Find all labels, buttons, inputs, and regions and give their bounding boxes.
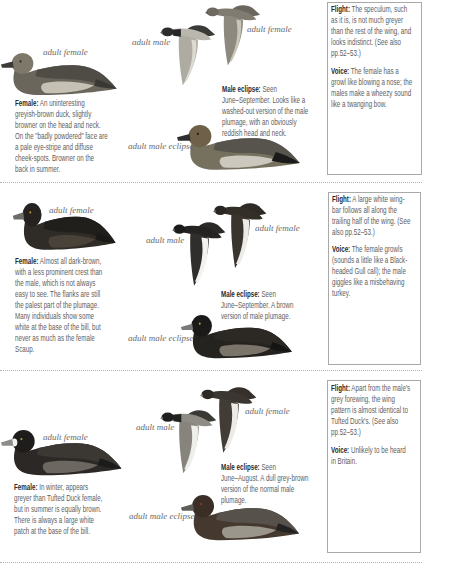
sidebar-line: as it is, is not much greyer	[331, 15, 412, 26]
label-sitting-female: adult female	[43, 47, 88, 58]
sidebar-line: than the rest of the wing, and	[331, 26, 412, 37]
sidebar-line: turkey.	[332, 288, 410, 299]
description-line: the male, which is not always	[15, 278, 102, 289]
label-sitting-female: adult female	[49, 205, 94, 216]
description-line: June–August. A dull grey-brown	[221, 473, 308, 484]
description-text: Seen	[261, 84, 277, 94]
section-divider	[0, 370, 422, 371]
sidebar-line: like a twanging bow.	[331, 99, 412, 110]
flight-paragraph: Flight: Apart from the male's grey forew…	[331, 383, 410, 438]
sidebar-line: Voice: Unlikely to be heard	[331, 445, 410, 456]
description-line: reddish head and neck.	[222, 128, 308, 139]
sidebar-line: headed Gull call); the male	[332, 266, 410, 277]
female-heading: Female:	[14, 482, 37, 492]
description-line: June–September. A brown	[221, 300, 294, 311]
description-line: but in summer is equally brown.	[14, 504, 102, 515]
flying-male-duck-illustration	[160, 25, 215, 85]
flying-male-duck-illustration	[160, 410, 216, 473]
sidebar-line: pattern is almost identical to	[331, 405, 410, 416]
description-line: Scaup.	[15, 344, 102, 355]
flight-voice-sidebar-box: Flight: A large white wing- bar follows …	[328, 192, 421, 365]
sidebar-text-span: The female has a	[349, 66, 399, 76]
sidebar-text-span: A large white wing-	[351, 194, 405, 204]
flight-heading: Flight:	[331, 383, 350, 393]
section-divider	[0, 182, 422, 183]
voice-paragraph: Voice: The female growls (sounds a littl…	[332, 244, 410, 299]
label-eclipse-male: adult male eclipse	[128, 333, 193, 344]
sidebar-line: pp.52–53.)	[331, 48, 412, 59]
sidebar-text: Flight: A large white wing- bar follows …	[332, 194, 410, 299]
description-line: plumage.	[221, 495, 308, 506]
flight-heading: Flight:	[331, 4, 350, 14]
sidebar-line: Tufted Duck's. (See also	[331, 416, 410, 427]
sidebar-line: males make a wheezy sound	[331, 88, 412, 99]
label-sitting-female: adult female	[43, 432, 88, 443]
description-line: with a less prominent crest than	[15, 267, 102, 278]
male-eclipse-heading: Male eclipse:	[221, 289, 260, 299]
voice-heading: Voice:	[331, 66, 349, 76]
sidebar-line: pp.52–53.)	[331, 427, 410, 438]
sidebar-text-span: The speculum, such	[350, 4, 407, 14]
description-line: Female: An uninteresting	[15, 98, 108, 109]
section-divider	[0, 562, 422, 563]
flight-paragraph: Flight: A large white wing- bar follows …	[332, 194, 410, 238]
description-line: Male eclipse: Seen	[221, 462, 308, 473]
female-heading: Female:	[15, 256, 38, 266]
male-eclipse-heading: Male eclipse:	[221, 462, 260, 472]
description-text: In winter, appears	[37, 482, 88, 492]
male-eclipse-description: Male eclipse: Seen June–September. A bro…	[221, 289, 294, 322]
description-text: Almost all dark-brown,	[38, 256, 101, 266]
description-line: washed-out version of the male	[222, 106, 308, 117]
male-eclipse-description: Male eclipse: Seen June–August. A dull g…	[221, 462, 308, 506]
sidebar-line: (sounds a little like a Black-	[332, 255, 410, 266]
sitting-female-duck-illustration	[1, 53, 117, 95]
flight-voice-sidebar-box: Flight: Apart from the male's grey forew…	[327, 380, 421, 553]
sidebar-line: giggles like a misbehaving	[332, 277, 410, 288]
sidebar-line: Voice: The female growls	[332, 244, 410, 255]
description-line: Female: In winter, appears	[14, 482, 102, 493]
description-line: greyer than Tufted Duck female,	[14, 493, 102, 504]
sidebar-line: Voice: The female has a	[331, 66, 412, 77]
description-line: white at the base of the bill, but	[15, 322, 102, 333]
flying-female-duck-illustration	[213, 203, 266, 268]
sidebar-line: looks indistinct. (See also	[331, 37, 412, 48]
sidebar-line: bar follows all along the	[332, 205, 410, 216]
description-line: There is always a large white	[14, 515, 102, 526]
label-flight-male: adult male	[146, 235, 184, 246]
description-line: Female: Almost all dark-brown,	[15, 256, 102, 267]
description-line: Many individuals show some	[15, 311, 102, 322]
sidebar-line: Flight: Apart from the male's	[331, 383, 410, 394]
sidebar-text: Flight: The speculum, such as it is, is …	[331, 4, 412, 110]
description-line: plumage, with an obviously	[222, 117, 308, 128]
male-eclipse-heading: Male eclipse:	[222, 84, 261, 94]
label-flight-male: adult male	[132, 37, 170, 48]
description-line: patch at the base of the bill.	[14, 526, 102, 537]
field-guide-page: adult female adult male adult female adu…	[0, 0, 450, 577]
description-line: On the "badly powdered" face are	[15, 131, 108, 142]
voice-paragraph: Voice: The female has a growl like blowi…	[331, 66, 412, 110]
sidebar-text-span: Unlikely to be heard	[349, 445, 406, 455]
description-line: version of male plumage.	[221, 311, 294, 322]
flight-voice-sidebar-box: Flight: The speculum, such as it is, is …	[327, 2, 422, 175]
female-description: Female: Almost all dark-brown, with a le…	[15, 256, 102, 355]
sidebar-line: Flight: A large white wing-	[332, 194, 410, 205]
description-line: greyish-brown duck, slightly	[15, 109, 108, 120]
description-line: the palest part of the plumage.	[15, 300, 102, 311]
voice-paragraph: Voice: Unlikely to be heard in Britain.	[331, 445, 410, 467]
label-eclipse-male: adult male eclipse	[128, 141, 193, 152]
label-flight-male: adult male	[136, 422, 174, 433]
description-line: browner on the head and neck.	[15, 120, 108, 131]
description-line: June–September. Looks like a	[222, 95, 308, 106]
flying-male-duck-illustration	[172, 222, 225, 286]
description-line: never as much as the female	[15, 333, 102, 344]
voice-heading: Voice:	[332, 244, 350, 254]
female-description: Female: An uninteresting greyish-brown d…	[15, 98, 108, 175]
flight-paragraph: Flight: The speculum, such as it is, is …	[331, 4, 412, 59]
label-flight-female: adult female	[255, 223, 300, 234]
description-line: back in summer.	[15, 164, 108, 175]
female-description: Female: In winter, appears greyer than T…	[14, 482, 102, 537]
description-text: Seen	[260, 462, 276, 472]
description-text: An uninteresting	[38, 98, 84, 108]
female-heading: Female:	[15, 98, 38, 108]
description-line: easy to see. The flanks are still	[15, 289, 102, 300]
